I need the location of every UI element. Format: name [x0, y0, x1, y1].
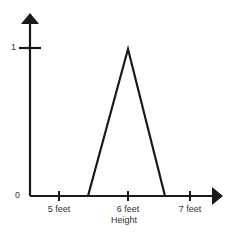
- y-tick-label-1: 1: [11, 42, 16, 52]
- x-tick-label-5ft: 5 feet: [48, 204, 71, 214]
- x-tick-label-6ft: 6 feet: [117, 204, 140, 214]
- x-axis-arrow-icon: [212, 187, 223, 205]
- chart-plot: [0, 0, 234, 234]
- triangle-series: [88, 49, 165, 196]
- x-tick-label-7ft: 7 feet: [179, 204, 202, 214]
- y-origin-label: 0: [15, 190, 20, 200]
- x-axis-title: Height: [111, 215, 137, 225]
- y-axis-arrow-icon: [21, 13, 39, 24]
